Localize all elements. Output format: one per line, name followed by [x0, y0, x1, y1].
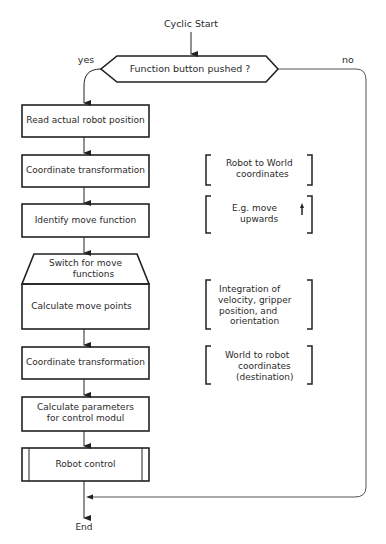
step-calc-params-line1: Calculate parameters [22, 402, 149, 413]
note-integration-line1: Integration of [219, 284, 280, 295]
step-coord-transform-2: Coordinate transformation [22, 357, 149, 368]
decision-label: Function button pushed ? [110, 63, 270, 74]
note-move-upwards-line1: E.g. move [232, 203, 277, 214]
step-coord-transform-1: Coordinate transformation [22, 165, 149, 176]
note-robot-to-world-line1: Robot to World [226, 158, 293, 169]
note-integration-line2: velocity, gripper [218, 295, 291, 306]
start-label: Cyclic Start [151, 18, 231, 29]
note-world-to-robot-line2: coordinates [238, 361, 291, 372]
no-branch-line [88, 69, 366, 497]
no-label: no [338, 54, 358, 65]
note-robot-to-world-line2: coordinates [236, 169, 289, 180]
end-label: End [72, 522, 96, 533]
step-switch-move-line2: functions [30, 269, 157, 280]
note-integration-line4: orientation [230, 316, 279, 327]
yes-branch-line [84, 69, 101, 103]
step-identify-move: Identify move function [22, 215, 149, 226]
step-robot-control: Robot control [22, 459, 149, 470]
step-switch-move-line1: Switch for move [22, 258, 149, 269]
note-world-to-robot-line3: (destination) [236, 372, 293, 383]
note-world-to-robot-line1: World to robot [225, 350, 289, 361]
step-read-position: Read actual robot position [22, 115, 149, 126]
note-move-upwards-line2: upwards [240, 214, 278, 225]
step-calc-move-points: Calculate move points [18, 301, 145, 312]
step-calc-params-line2: for control modul [22, 413, 149, 424]
yes-label: yes [74, 54, 98, 65]
